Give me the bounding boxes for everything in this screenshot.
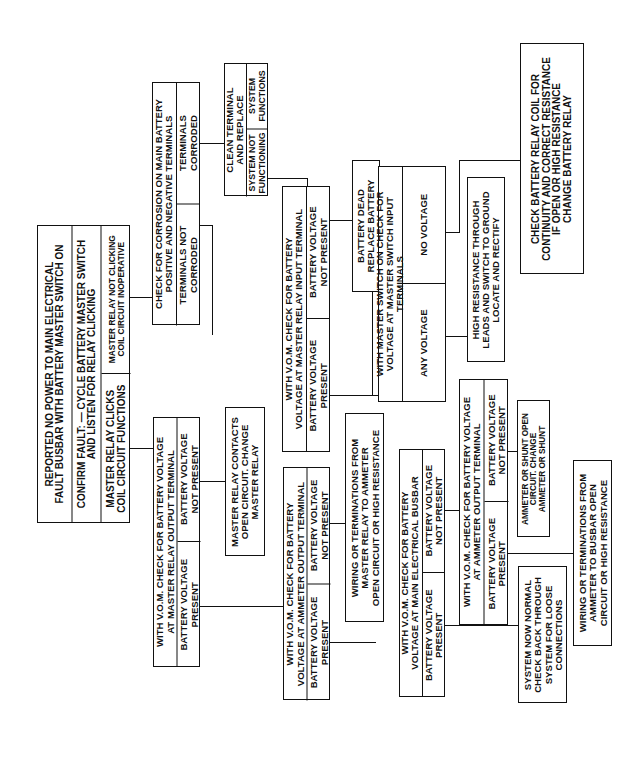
relay-contacts-open-box: MASTER RELAY CONTACTS OPEN CIRCUIT. CHAN… — [225, 407, 265, 556]
connector — [200, 606, 283, 607]
ammeter-output-check-box-1: WITH V.O.M. CHECK FOR BATTERY VOLTAGE AT… — [283, 467, 330, 700]
option-terminals-corroded: TERMINALS CORRODED — [177, 82, 200, 204]
option-voltage-not-present: BATTERY VOLTAGE NOT PRESENT — [307, 467, 330, 584]
option-any-voltage: ANY VOLTAGE — [403, 285, 446, 403]
connector — [330, 220, 352, 221]
option-terminals-not-corroded: TERMINALS NOT CORRODED — [177, 204, 200, 325]
connector — [130, 448, 153, 449]
connector — [268, 178, 308, 179]
system-normal-box: SYSTEM NOW NORMAL CHECK BACK THROUGH SYS… — [518, 566, 567, 703]
battery-relay-coil-text: CHECK BATTERY RELAY COIL FOR CONTINUITY … — [520, 43, 584, 274]
option-no-voltage: NO VOLTAGE — [403, 166, 446, 285]
option-voltage-present: BATTERY VOLTAGE PRESENT — [307, 320, 330, 453]
wiring-relay-to-ammeter-text: WIRING OR TERMINATIONS FROM MASTER RELAY… — [345, 413, 384, 622]
option-system-not-functioning: SYSTEM NOT FUNCTIONING — [247, 129, 268, 196]
relay-contacts-open-text: MASTER RELAY CONTACTS OPEN CIRCUIT. CHAN… — [225, 407, 265, 556]
confirm-fault-text: CONFIRM FAULT: — CYCLE BATTERY MASTER SW… — [72, 225, 100, 523]
ammeter-shunt-open-text: AMMETER OR SHUNT OPEN CIRCUIT. CHANGE AM… — [517, 400, 550, 537]
connector — [445, 510, 459, 511]
option-relay-clicks: MASTER RELAY CLICKS COIL CIRCUIT FUNCTIO… — [101, 375, 130, 524]
system-normal-text: SYSTEM NOW NORMAL CHECK BACK THROUGH SYS… — [518, 566, 567, 703]
option-voltage-not-present: BATTERY VOLTAGE NOT PRESENT — [307, 186, 330, 320]
connector — [459, 160, 460, 233]
relay-output-header: WITH V.O.M. CHECK FOR BATTERY VOLTAGE AT… — [153, 417, 176, 667]
busbar-header: WITH V.O.M. CHECK FOR BATTERY VOLTAGE AT… — [399, 449, 422, 697]
connector — [446, 232, 460, 233]
ammeter-output-check-box-2: WITH V.O.M. CHECK FOR BATTERY VOLTAGE AT… — [459, 379, 508, 625]
option-voltage-present: BATTERY VOLTAGE PRESENT — [423, 574, 445, 698]
ammeter-output-header-2: WITH V.O.M. CHECK FOR BATTERY VOLTAGE AT… — [459, 379, 483, 625]
option-voltage-not-present: BATTERY VOLTAGE NOT PRESENT — [484, 379, 508, 503]
high-resistance-text: HIGH RESISTANCE THROUGH LEADS AND SWITCH… — [467, 177, 505, 362]
option-relay-not-clicking: MASTER RELAY NOT CLICKING COIL CIRCUIT I… — [101, 225, 130, 375]
connector — [200, 225, 212, 226]
connector — [446, 336, 467, 337]
wiring-ammeter-to-busbar-text: WIRING OR TERMINATIONS FROM AMMETER TO B… — [573, 460, 612, 646]
master-switch-check-box: WITH MASTER SWITCH ON CHECK FOR VOLTAGE … — [378, 166, 446, 402]
relay-input-header: WITH V.O.M. CHECK FOR BATTERY VOLTAGE AT… — [282, 186, 306, 452]
wiring-ammeter-to-busbar-box: WIRING OR TERMINATIONS FROM AMMETER TO B… — [573, 460, 612, 646]
battery-relay-coil-box: CHECK BATTERY RELAY COIL FOR CONTINUITY … — [520, 43, 584, 274]
option-voltage-present: BATTERY VOLTAGE PRESENT — [177, 543, 200, 668]
connector — [200, 143, 224, 144]
connector — [200, 481, 225, 482]
option-voltage-not-present: BATTERY VOLTAGE NOT PRESENT — [423, 449, 445, 574]
corrosion-header: CHECK FOR CORROSION ON MAIN BATTERY POSI… — [152, 82, 176, 325]
start-header: REPORTED NO POWER TO MAIN ELECTRICAL FAU… — [37, 225, 71, 523]
connector — [330, 642, 376, 643]
clean-terminal-box: CLEAN TERMINAL AND REPLACE SYSTEM NOT FU… — [224, 63, 268, 196]
corrosion-check-box: CHECK FOR CORROSION ON MAIN BATTERY POSI… — [152, 82, 200, 325]
connector — [508, 451, 517, 452]
relay-output-check-box: WITH V.O.M. CHECK FOR BATTERY VOLTAGE AT… — [153, 417, 200, 667]
option-voltage-present: BATTERY VOLTAGE PRESENT — [484, 503, 508, 626]
master-switch-header: WITH MASTER SWITCH ON CHECK FOR VOLTAGE … — [378, 166, 402, 402]
connector — [330, 523, 345, 524]
connector — [130, 297, 152, 298]
connector — [508, 553, 573, 554]
busbar-check-box: WITH V.O.M. CHECK FOR BATTERY VOLTAGE AT… — [399, 449, 445, 697]
ammeter-shunt-open-box: AMMETER OR SHUNT OPEN CIRCUIT. CHANGE AM… — [517, 400, 550, 537]
connector — [459, 160, 520, 161]
connector — [330, 395, 378, 396]
ammeter-output-header-1: WITH V.O.M. CHECK FOR BATTERY VOLTAGE AT… — [283, 467, 306, 700]
connector — [445, 625, 518, 626]
wiring-relay-to-ammeter-box: WIRING OR TERMINATIONS FROM MASTER RELAY… — [345, 413, 384, 622]
clean-terminal-header: CLEAN TERMINAL AND REPLACE — [224, 63, 246, 196]
option-system-functions: SYSTEM FUNCTIONS — [247, 63, 268, 129]
option-voltage-present: BATTERY VOLTAGE PRESENT — [307, 584, 330, 700]
connector — [212, 225, 213, 335]
relay-input-check-box: WITH V.O.M. CHECK FOR BATTERY VOLTAGE AT… — [282, 186, 330, 452]
option-voltage-not-present: BATTERY VOLTAGE NOT PRESENT — [177, 417, 200, 543]
high-resistance-box: HIGH RESISTANCE THROUGH LEADS AND SWITCH… — [467, 177, 505, 362]
start-fault-box: REPORTED NO POWER TO MAIN ELECTRICAL FAU… — [37, 225, 130, 523]
